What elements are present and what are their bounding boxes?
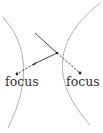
reflection-point bbox=[56, 52, 59, 55]
left-focus-label: focus bbox=[5, 74, 39, 89]
incoming-ray bbox=[35, 33, 57, 53]
hyperbola-diagram: focus focus bbox=[0, 0, 103, 133]
arrowhead-icon bbox=[31, 62, 36, 66]
reflected-ray bbox=[34, 53, 57, 64]
left-hyperbola-branch bbox=[3, 17, 24, 128]
right-focus-label: focus bbox=[66, 74, 100, 89]
dashed-extension-to-right-focus bbox=[57, 53, 80, 73]
right-hyperbola-branch bbox=[62, 3, 100, 125]
